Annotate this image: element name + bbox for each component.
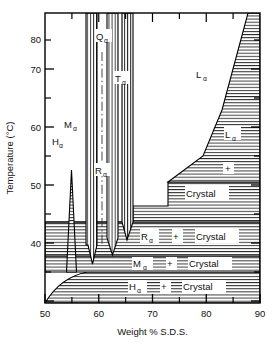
label-m-alpha-sub: α <box>73 125 77 132</box>
label-t-alpha: T α <box>114 71 129 86</box>
x-tick-label-70: 70 <box>147 308 158 319</box>
y-axis-label: Temperature (°C) <box>4 122 15 195</box>
x-tick-label-90: 90 <box>255 308 266 319</box>
y-tick-label-50: 50 <box>30 180 41 191</box>
label-h-alpha-sub: α <box>59 142 63 149</box>
label-hc-plus: + <box>161 281 167 292</box>
label-m-alpha-main: M <box>64 119 72 130</box>
phase-diagram-figure: 80 70 60 50 40 50 60 70 80 90 Weight % S… <box>0 0 277 351</box>
label-hc-h-sub: α <box>137 287 141 294</box>
label-mc-m-main: M <box>133 258 141 269</box>
label-h-alpha-main: H <box>52 136 59 147</box>
label-mc-crystal: Crystal <box>189 258 219 269</box>
label-r-alpha: R α <box>94 163 111 178</box>
region-r-alpha-left <box>86 13 97 264</box>
label-hc-h-main: H <box>129 281 136 292</box>
label-t-alpha-sub: α <box>122 79 126 86</box>
label-l-alpha-plus: + <box>225 163 231 174</box>
label-crystal-text: Crystal <box>186 188 216 199</box>
label-rc-r-main: R <box>141 231 148 242</box>
label-l-alpha-sub: α <box>203 75 207 82</box>
region-r-alpha-right <box>122 13 133 240</box>
label-r-alpha-sub: α <box>103 171 107 178</box>
label-rc-r-sub: α <box>149 237 153 244</box>
label-mc-plus: + <box>167 258 173 269</box>
label-l-alpha-2-sub: α <box>232 135 236 142</box>
label-rc-plus: + <box>173 231 179 242</box>
y-tick-label-80: 80 <box>30 34 41 45</box>
label-t-alpha-main: T <box>115 73 121 84</box>
y-tick-labels: 80 70 60 50 40 <box>30 34 41 249</box>
label-q-alpha-sub: α <box>104 37 108 44</box>
label-l-alpha-2-main: L <box>225 129 230 140</box>
x-tick-label-60: 60 <box>93 308 104 319</box>
label-mc-m-sub: α <box>143 264 147 271</box>
label-crystal: Crystal <box>185 186 229 200</box>
x-tick-label-80: 80 <box>201 308 212 319</box>
phase-diagram-svg: 80 70 60 50 40 50 60 70 80 90 Weight % S… <box>0 0 277 351</box>
y-tick-label-40: 40 <box>30 238 41 249</box>
y-tick-label-70: 70 <box>30 64 41 75</box>
label-rc-crystal: Crystal <box>196 231 226 242</box>
x-tick-labels: 50 60 70 80 90 <box>40 308 266 319</box>
x-tick-label-50: 50 <box>40 308 51 319</box>
label-q-alpha-main: Q <box>96 31 103 42</box>
x-axis-label: Weight % S.D.S. <box>117 326 188 337</box>
label-hc-crystal: Crystal <box>183 281 213 292</box>
region-r-alpha-sliver <box>107 13 118 255</box>
label-l-alpha-main: L <box>196 69 201 80</box>
label-q-alpha: Q α <box>95 29 112 44</box>
label-r-alpha-main: R <box>95 165 102 176</box>
y-tick-label-60: 60 <box>30 122 41 133</box>
